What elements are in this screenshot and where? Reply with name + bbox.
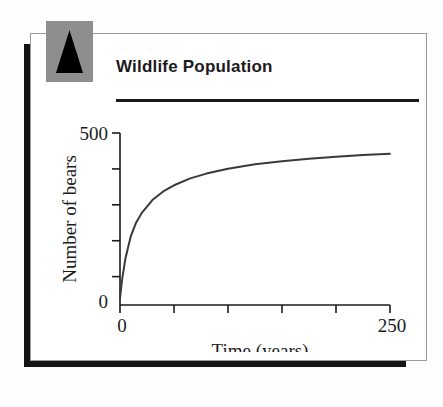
figure-canvas: Wildlife Population 50000250Time (years)… [0, 0, 443, 407]
y-axis-min-label: 0 [99, 291, 109, 312]
x-axis-max-label: 250 [378, 315, 407, 336]
wildlife-population-chart: 50000250Time (years)Number of bears [50, 112, 420, 352]
y-axis-title: Number of bears [59, 155, 80, 283]
axis-lines [120, 133, 390, 305]
x-axis-title: Time (years) [212, 340, 309, 352]
page-title: Wildlife Population [116, 57, 273, 77]
badge-swatch [46, 21, 93, 82]
title-divider [116, 99, 419, 102]
population-curve [120, 154, 390, 298]
y-axis-max-label: 500 [80, 123, 109, 144]
x-axis-min-label: 0 [117, 315, 127, 336]
black-triangle-icon [46, 21, 93, 82]
